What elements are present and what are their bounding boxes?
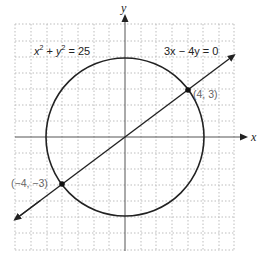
intersection-point-4-3 xyxy=(185,87,191,93)
coordinate-plane: x y x2 + y2 = 25 3x − 4y = 0 (4, 3) (−4,… xyxy=(0,0,262,260)
circle-equation-label: x2 + y2 = 25 xyxy=(33,44,90,57)
point-label-neg4-neg3: (−4, −3) xyxy=(11,177,48,189)
line-equation-label: 3x − 4y = 0 xyxy=(164,45,218,57)
y-axis-label: y xyxy=(120,1,127,15)
x-axis-label: x xyxy=(250,130,257,144)
intersection-point-neg4-neg3 xyxy=(59,181,65,187)
point-label-4-3: (4, 3) xyxy=(193,88,218,100)
